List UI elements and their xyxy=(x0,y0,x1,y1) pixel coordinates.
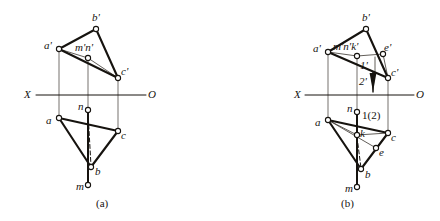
point-node-n-low-panel-a xyxy=(85,107,90,112)
label-b-prime-panel-b: b' xyxy=(362,12,370,23)
label-a-prime-panel-b: a' xyxy=(313,43,321,54)
point-node-e-low-panel-b xyxy=(373,145,378,150)
vertex-node-a-low-panel-b xyxy=(325,117,330,122)
upper-triangle-outline-panel-a xyxy=(59,29,118,78)
vertex-node-b-prime-panel-a xyxy=(93,26,98,31)
vertex-node-c-low-panel-a xyxy=(115,128,120,133)
point-node-k-low-panel-b xyxy=(354,132,359,137)
axis-label-x-panel-b: X xyxy=(294,89,301,100)
label-b-prime-panel-a: b' xyxy=(92,12,100,23)
caption-panel-a: (a) xyxy=(96,198,108,209)
caption-panel-b: (b) xyxy=(341,198,354,209)
label-a-prime-panel-a: a' xyxy=(44,40,52,51)
vertex-node-c-low-panel-b xyxy=(385,130,390,135)
label-a-panel-b: a xyxy=(315,117,321,128)
vertex-node-a-low-panel-a xyxy=(56,115,61,120)
label-a-panel-a: a xyxy=(46,115,52,126)
annotation-1-2: 1(2) xyxy=(362,110,380,121)
vertex-node-b-prime-panel-b xyxy=(363,26,368,31)
arrow-head-visibility-arrow xyxy=(370,73,377,92)
label-b-panel-a: b xyxy=(95,166,101,177)
annotation-1-prime: 1' xyxy=(360,60,368,71)
axis-label-x-panel-a: X xyxy=(24,89,31,100)
label-k-panel-b: k xyxy=(360,128,365,139)
label-n-panel-b: n xyxy=(347,103,353,114)
label-n-panel-a: n xyxy=(78,101,84,112)
label-c-panel-b: c xyxy=(391,132,396,143)
vertex-node-c-prime-panel-b xyxy=(385,75,390,80)
point-node-m-low-panel-b xyxy=(354,184,359,189)
vertex-node-b-low-panel-a xyxy=(88,164,93,169)
label-mnk-prime-panel-b: m'n'k' xyxy=(333,41,358,52)
axis-label-o-panel-b: O xyxy=(416,89,424,100)
point-node-mn-prime-panel-a xyxy=(85,55,90,60)
vertex-node-a-prime-panel-b xyxy=(325,49,330,54)
label-c-prime-panel-a: c' xyxy=(121,66,128,77)
figure-canvas: a' b' c' m'n' a b c n m X O a' b' c' m'n… xyxy=(0,0,440,221)
label-c-panel-a: c xyxy=(121,130,126,141)
label-e-panel-b: e xyxy=(379,147,384,158)
point-node-mnk-prime-panel-b xyxy=(354,53,359,58)
vertex-node-a-prime-panel-a xyxy=(56,46,61,51)
point-node-n-low-panel-b xyxy=(354,109,359,114)
label-m-panel-b: m xyxy=(345,183,353,194)
annotation-2-prime: 2' xyxy=(359,76,367,87)
label-c-prime-panel-b: c' xyxy=(391,67,398,78)
axis-label-o-panel-a: O xyxy=(148,89,156,100)
label-mn-prime-panel-a: m'n' xyxy=(75,42,93,53)
label-e-prime-panel-b: e' xyxy=(384,42,391,53)
vertex-node-c-prime-panel-a xyxy=(115,75,120,80)
label-m-panel-a: m xyxy=(76,181,84,192)
point-node-m-low-panel-a xyxy=(85,182,90,187)
label-b-panel-b: b xyxy=(365,169,371,180)
vertex-node-b-low-panel-b xyxy=(358,166,363,171)
